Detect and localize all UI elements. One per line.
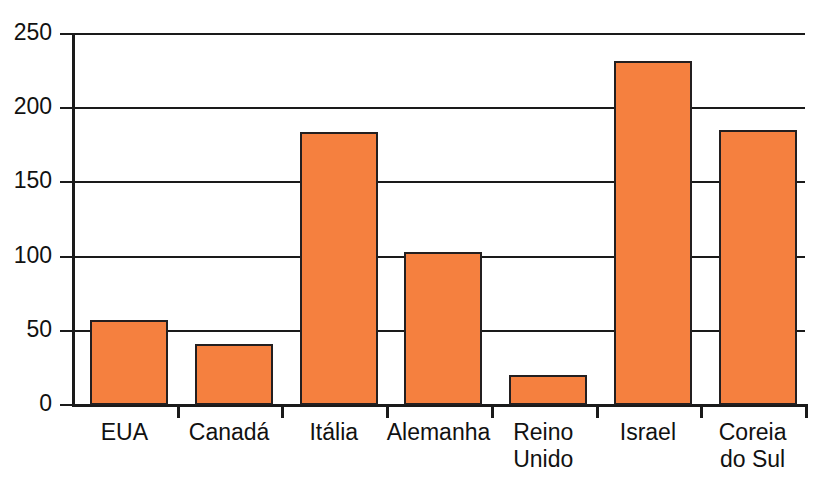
x-tick-6 (805, 405, 808, 418)
bar-coreia-do-sul (719, 130, 797, 405)
x-tick-5 (700, 405, 703, 418)
y-tick-150 (60, 181, 74, 183)
y-tick-label-100: 100 (0, 244, 52, 267)
gridline-200 (72, 107, 805, 109)
x-tick-1 (281, 405, 284, 418)
category-label-itália: Itália (281, 419, 386, 446)
gridline-250 (72, 33, 805, 35)
category-label-canadá: Canadá (177, 419, 282, 446)
category-label-eua: EUA (72, 419, 177, 446)
y-tick-250 (60, 33, 74, 35)
bar-itália (300, 132, 378, 405)
x-tick-2 (386, 405, 389, 418)
bar-israel (614, 61, 692, 405)
bar-reino-unido (509, 375, 587, 405)
y-tick-label-200: 200 (0, 95, 52, 118)
y-tick-label-250: 250 (0, 21, 52, 44)
x-tick-4 (596, 405, 599, 418)
y-tick-label-50: 50 (0, 318, 52, 341)
category-label-coreia-do-sul: Coreia do Sul (700, 419, 805, 473)
y-tick-label-0: 0 (0, 392, 52, 415)
category-label-reino-unido: Reino Unido (491, 419, 596, 473)
x-tick-3 (491, 405, 494, 418)
category-label-alemanha: Alemanha (386, 419, 491, 446)
x-tick-0 (177, 405, 180, 418)
y-tick-200 (60, 107, 74, 109)
bar-chart: 050100150200250 EUACanadáItáliaAlemanhaR… (0, 0, 829, 483)
y-tick-0 (60, 404, 74, 406)
bar-alemanha (404, 252, 482, 405)
y-axis-line (72, 33, 75, 407)
y-tick-label-150: 150 (0, 169, 52, 192)
y-tick-50 (60, 330, 74, 332)
gridline-150 (72, 181, 805, 183)
bar-canadá (195, 344, 273, 405)
bar-eua (90, 320, 168, 405)
y-tick-100 (60, 256, 74, 258)
category-label-israel: Israel (596, 419, 701, 446)
